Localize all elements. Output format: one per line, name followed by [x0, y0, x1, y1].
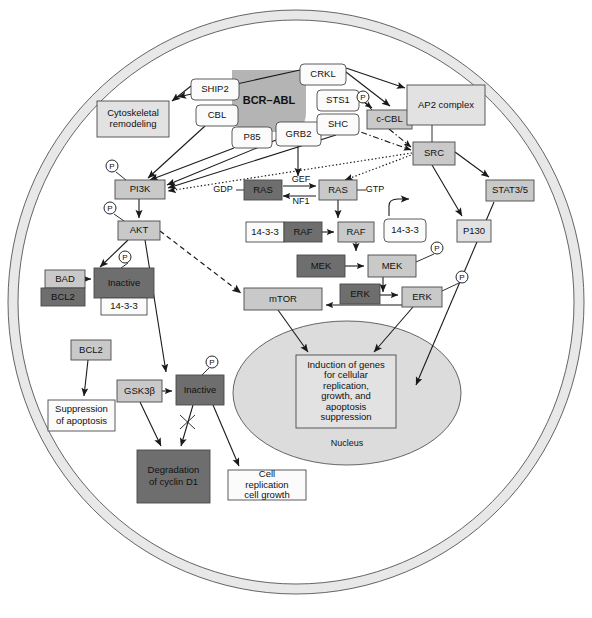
- node-stat35: STAT3/5: [486, 180, 534, 201]
- node-label-induction: suppression: [320, 411, 371, 422]
- node-label-ship2: SHIP2: [201, 83, 228, 94]
- phospho-marker-p-inactive-akt: P: [119, 251, 131, 263]
- node-label-bad: BAD: [55, 273, 75, 284]
- node-p85: P85: [232, 127, 272, 148]
- node-label-cell_repl: cell growth: [244, 489, 289, 500]
- node-bad: BAD: [45, 270, 85, 288]
- node-label-erk_light: ERK: [412, 291, 432, 302]
- node-ras_gdp: RAS: [244, 180, 282, 200]
- node-erk_dark: ERK: [340, 284, 380, 304]
- node-label-induction: apoptosis: [326, 401, 367, 412]
- phospho-marker-p-inactive-gsk: P: [206, 356, 218, 368]
- node-free_1433: 14-3-3: [384, 219, 426, 242]
- node-mek_light: MEK: [368, 255, 416, 277]
- node-label-erk_dark: ERK: [350, 288, 370, 299]
- node-label-induction: growth, and: [321, 390, 371, 401]
- node-sts1: STS1: [317, 90, 359, 111]
- phospho-label: P: [434, 244, 439, 253]
- node-label-raf_light: RAF: [347, 226, 366, 237]
- text-nf1: NF1: [292, 196, 309, 206]
- phospho-label: P: [459, 273, 464, 282]
- node-label-ras_gtp: RAS: [328, 184, 348, 195]
- node-label-cyto: Cytoskeletal: [107, 107, 159, 118]
- node-grb2: GRB2: [276, 122, 321, 146]
- node-label-induction: Induction of genes: [307, 359, 385, 370]
- node-label-bcl2_b: BCL2: [79, 344, 103, 355]
- phospho-marker-p-ccbl: P: [357, 91, 369, 103]
- node-label-degradation: of cyclin D1: [149, 476, 198, 487]
- node-label-inactive_1433: 14-3-3: [110, 300, 137, 311]
- pathway-diagram: BCR–ABLSHIP2CBLP85GRB2CRKLSTS1SHCc-CBLAP…: [0, 0, 592, 618]
- node-c_cbl: c-CBL: [367, 110, 412, 129]
- node-label-bcl2_a: BCL2: [51, 291, 75, 302]
- node-p130: P130: [457, 220, 491, 242]
- phospho-label: P: [209, 358, 214, 367]
- node-degradation: Degradationof cyclin D1: [137, 450, 210, 503]
- node-erk_light: ERK: [402, 287, 442, 307]
- node-suppression: Suppressionof apoptosis: [48, 400, 115, 431]
- node-cell_repl: Cellreplicationcell growth: [228, 468, 306, 500]
- node-label-raf_dark: RAF: [294, 226, 313, 237]
- node-bcr_abl: BCR–ABL: [243, 94, 296, 106]
- node-cbl: CBL: [196, 105, 238, 126]
- text-gdp: GDP: [213, 184, 233, 194]
- node-gsk3b: GSK3β: [117, 380, 162, 402]
- node-label-induction: for cellular: [324, 369, 368, 380]
- node-mek_dark: MEK: [297, 255, 345, 277]
- node-label-induction: replication,: [323, 380, 369, 391]
- node-label-crkl: CRKL: [310, 68, 335, 79]
- text-gef: GEF: [292, 174, 311, 184]
- node-raf_dark: RAF: [284, 222, 322, 242]
- node-label-c_cbl: c-CBL: [376, 113, 402, 124]
- node-pi3k: PI3K: [115, 180, 165, 199]
- node-akt_inactive: Inactive: [94, 268, 154, 298]
- phospho-marker-p-akt: P: [104, 202, 116, 214]
- node-label-cell_repl: Cell: [259, 468, 275, 479]
- node-ap2: AP2 complex: [407, 85, 485, 125]
- phospho-marker-p-pi3k: P: [106, 160, 118, 172]
- phospho-marker-p-mek: P: [431, 242, 443, 254]
- phospho-label: P: [122, 253, 127, 262]
- node-label-bcr_abl: BCR–ABL: [243, 94, 296, 106]
- node-label-degradation: Degradation: [148, 464, 200, 475]
- node-ras_gtp: RAS: [319, 180, 357, 200]
- node-raf_light: RAF: [338, 222, 374, 242]
- node-label-suppression: Suppression: [55, 403, 108, 414]
- node-label-raf_1433: 14-3-3: [251, 226, 278, 237]
- node-label-ras_gdp: RAS: [253, 184, 273, 195]
- node-label-shc: SHC: [328, 118, 348, 129]
- node-label-stat35: STAT3/5: [492, 184, 528, 195]
- node-label-mek_light: MEK: [382, 260, 403, 271]
- node-label-mek_dark: MEK: [311, 260, 332, 271]
- node-cyto: Cytoskeletalremodeling: [97, 101, 169, 137]
- phospho-label: P: [109, 162, 114, 171]
- node-label-cell_repl: replication: [245, 479, 288, 490]
- phospho-label: P: [107, 204, 112, 213]
- phospho-label: P: [360, 93, 365, 102]
- node-label-src: SRC: [424, 147, 444, 158]
- node-bcl2_a: BCL2: [41, 288, 85, 306]
- node-label-grb2: GRB2: [286, 128, 312, 139]
- node-src: SRC: [413, 142, 455, 165]
- node-label-gsk3b: GSK3β: [124, 385, 155, 396]
- node-label-akt_inactive: Inactive: [108, 277, 141, 288]
- node-mtor: mTOR: [244, 288, 322, 310]
- node-label-ap2: AP2 complex: [418, 99, 474, 110]
- node-crkl: CRKL: [300, 64, 346, 85]
- node-gsk_inactive: Inactive: [176, 375, 224, 405]
- node-label-pi3k: PI3K: [130, 183, 151, 194]
- node-label-suppression: of apoptosis: [56, 415, 107, 426]
- node-label-free_1433: 14-3-3: [391, 224, 418, 235]
- text-nucleus: Nucleus: [331, 438, 364, 448]
- node-inactive_1433: 14-3-3: [101, 298, 147, 315]
- node-akt: AKT: [118, 221, 160, 240]
- node-label-cbl: CBL: [208, 109, 226, 120]
- text-gtp: GTP: [366, 184, 385, 194]
- node-bcl2_b: BCL2: [71, 340, 111, 360]
- node-label-akt: AKT: [130, 224, 149, 235]
- node-label-gsk_inactive: Inactive: [184, 384, 217, 395]
- node-label-p85: P85: [244, 131, 261, 142]
- phospho-marker-p-erk: P: [456, 271, 468, 283]
- pathway-figure: BCR–ABLSHIP2CBLP85GRB2CRKLSTS1SHCc-CBLAP…: [0, 0, 592, 618]
- node-label-cyto: remodeling: [110, 118, 157, 129]
